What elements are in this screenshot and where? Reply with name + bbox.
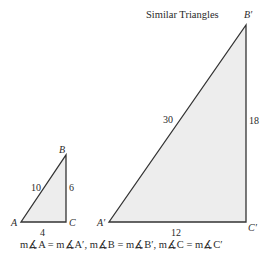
side-label-ab: 10 bbox=[31, 182, 41, 193]
similar-triangles-diagram: Similar Triangles B A C 10 6 4 B′ A′ C′ … bbox=[0, 0, 266, 262]
vertex-label-b: B bbox=[59, 144, 65, 155]
vertex-label-c: C bbox=[69, 217, 76, 228]
diagram-title: Similar Triangles bbox=[146, 9, 219, 20]
vertex-label-a-prime: A′ bbox=[96, 217, 106, 228]
vertex-label-a: A bbox=[10, 217, 18, 228]
vertex-label-c-prime: C′ bbox=[248, 222, 258, 233]
vertex-label-b-prime: B′ bbox=[244, 9, 253, 20]
side-label-bc: 6 bbox=[69, 182, 74, 193]
small-triangle bbox=[21, 155, 66, 222]
angle-equality-caption: m∡A = m∡A′, m∡B = m∡B′, m∡C = m∡C′ bbox=[20, 238, 223, 250]
side-label-a-prime-c-prime: 12 bbox=[171, 227, 181, 238]
side-label-a-prime-b-prime: 30 bbox=[163, 114, 173, 125]
large-triangle bbox=[109, 25, 246, 222]
side-label-b-prime-c-prime: 18 bbox=[249, 115, 259, 126]
side-label-ac: 4 bbox=[40, 227, 45, 238]
